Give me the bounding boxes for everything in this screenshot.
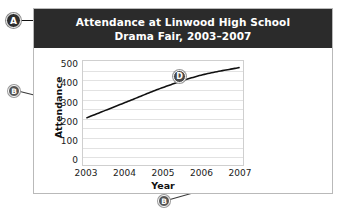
chart-title-line-2: Drama Fair, 2003–2007 (115, 29, 252, 43)
data-line (83, 61, 243, 165)
callout-marker-d[interactable]: D (173, 70, 186, 83)
figure-screenshot: Attendance at Linwood High School Drama … (0, 0, 347, 217)
x-tick-label: 2005 (152, 168, 175, 178)
x-tick-label: 2004 (113, 168, 136, 178)
y-axis-tick-labels: 500 400 300 200 100 0 (50, 60, 78, 166)
plot-area (82, 60, 244, 166)
y-tick-label: 500 (50, 60, 78, 69)
y-tick-label: 0 (50, 156, 78, 165)
x-axis-tick-labels: 2003 2004 2005 2006 2007 (82, 168, 244, 180)
y-tick-label: 200 (50, 118, 78, 127)
figure-frame: Attendance at Linwood High School Drama … (33, 8, 333, 194)
chart-title-banner: Attendance at Linwood High School Drama … (34, 9, 332, 48)
callout-marker-a[interactable]: A (6, 13, 21, 28)
y-tick-label: 400 (50, 79, 78, 88)
x-tick-label: 2003 (75, 168, 98, 178)
y-tick-label: 100 (50, 137, 78, 146)
chart-title-line-1: Attendance at Linwood High School (76, 15, 290, 29)
y-tick-label: 300 (50, 99, 78, 108)
x-axis-title: Year (82, 180, 244, 191)
callout-marker-b-left[interactable]: B (8, 85, 20, 97)
x-tick-label: 2007 (229, 168, 252, 178)
callout-marker-b-bottom[interactable]: B (158, 195, 170, 207)
x-tick-label: 2006 (190, 168, 213, 178)
